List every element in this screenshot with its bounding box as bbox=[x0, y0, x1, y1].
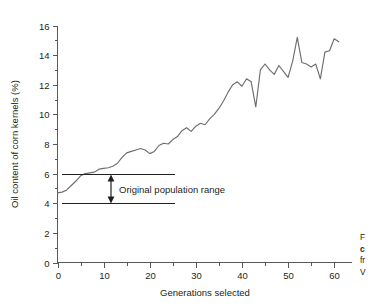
annotation-label: Original population range bbox=[119, 184, 225, 195]
y-axis-title: Oil content of corn kernels (%) bbox=[9, 80, 20, 208]
y-tick-label-16: 16 bbox=[39, 21, 50, 32]
y-tick-label-6: 6 bbox=[44, 169, 49, 180]
caption-line-1: F bbox=[360, 232, 381, 244]
y-tick-label-10: 10 bbox=[39, 109, 50, 120]
caption-line-3: fr bbox=[360, 255, 381, 267]
figure-root: 0246810121416 0102030405060 Oil content … bbox=[0, 0, 381, 306]
y-tick-label-0: 0 bbox=[44, 258, 49, 269]
data-series-line bbox=[58, 37, 339, 193]
y-tick-label-8: 8 bbox=[44, 139, 49, 150]
oil-content-line-chart: 0246810121416 0102030405060 Oil content … bbox=[0, 0, 356, 306]
x-tick-label-40: 40 bbox=[237, 270, 248, 281]
original-population-range-annotation: Original population range bbox=[62, 175, 225, 204]
arrow-up-icon bbox=[108, 175, 115, 182]
y-tick-label-4: 4 bbox=[44, 198, 49, 209]
y-tick-label-14: 14 bbox=[39, 50, 50, 61]
y-tick-label-12: 12 bbox=[39, 80, 50, 91]
caption-line-4: V bbox=[360, 267, 381, 279]
arrow-down-icon bbox=[108, 197, 115, 204]
x-tick-label-20: 20 bbox=[145, 270, 156, 281]
x-tick-label-10: 10 bbox=[99, 270, 110, 281]
figure-caption: FcfrV bbox=[360, 232, 381, 278]
x-tick-label-50: 50 bbox=[283, 270, 294, 281]
y-axis-major-ticks bbox=[53, 27, 58, 264]
x-tick-label-60: 60 bbox=[329, 270, 340, 281]
x-axis-major-ticks bbox=[59, 263, 335, 268]
x-axis-tick-labels: 0102030405060 bbox=[56, 270, 340, 281]
x-tick-label-0: 0 bbox=[56, 270, 61, 281]
x-axis-title: Generations selected bbox=[160, 287, 250, 298]
caption-line-2: c bbox=[360, 244, 381, 256]
y-axis-tick-labels: 0246810121416 bbox=[39, 21, 50, 269]
chart-svg: 0246810121416 0102030405060 Oil content … bbox=[0, 0, 356, 306]
axes bbox=[58, 26, 353, 263]
x-tick-label-30: 30 bbox=[191, 270, 202, 281]
y-tick-label-2: 2 bbox=[44, 228, 49, 239]
